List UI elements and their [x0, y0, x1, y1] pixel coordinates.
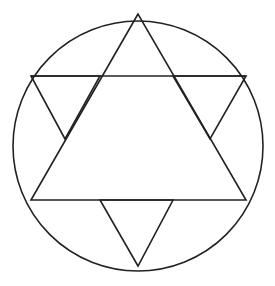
right-small-triangle [173, 76, 246, 139]
left-small-triangle [31, 76, 100, 139]
hexagram-diagram [0, 0, 275, 286]
circumscribed-circle [13, 21, 263, 271]
large-triangle [31, 14, 246, 200]
bottom-small-triangle [100, 200, 173, 266]
